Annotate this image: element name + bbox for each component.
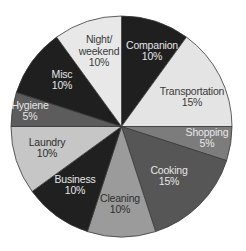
slice-value: 5% (23, 110, 38, 122)
slice-name: Business (54, 173, 95, 185)
pie-chart: Companion10%Transportation15%Shopping5%C… (0, 0, 246, 251)
slice-name: Cleaning (100, 192, 140, 204)
slice-value: 5% (200, 137, 215, 149)
slice-value: 15% (159, 175, 179, 187)
slice-label-misc: Misc10% (52, 68, 73, 92)
slice-value: 10% (37, 147, 57, 159)
slice-name: Misc (52, 68, 73, 80)
slice-name: Shopping (186, 126, 229, 138)
slice-name: Companion (126, 39, 178, 51)
slice-name: Laundry (29, 136, 66, 148)
slice-value: 10% (110, 203, 130, 215)
slice-value: 10% (65, 184, 85, 196)
slice-value: 15% (182, 96, 202, 108)
slice-name: weekend (78, 45, 120, 57)
slice-name: Transportation (160, 85, 225, 97)
slice-name: Night/ (86, 33, 113, 45)
slice-name: Cooking (150, 164, 187, 176)
slice-name: Hygiene (11, 99, 48, 111)
slice-value: 10% (142, 50, 162, 62)
slice-value: 10% (52, 79, 72, 91)
slice-value: 10% (89, 56, 109, 68)
